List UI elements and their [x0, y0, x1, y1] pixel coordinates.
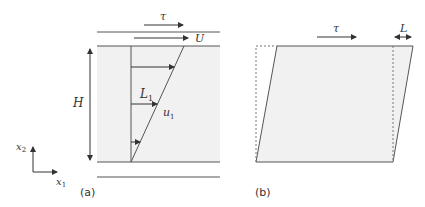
U-label: U — [195, 32, 205, 45]
tau-label: τ — [160, 10, 167, 23]
L-label: L — [399, 22, 407, 35]
H-label: H — [72, 96, 84, 110]
tau-label-b: τ — [333, 22, 340, 35]
sheared-element — [256, 46, 413, 162]
fluid-region — [97, 46, 220, 162]
x1-label: x1 — [56, 176, 66, 189]
x2-label: x2 — [16, 141, 26, 154]
panel-a: τ U H L1 u1 x2 x1 (a) — [16, 10, 220, 199]
shear-flow-diagram: τ U H L1 u1 x2 x1 (a) τ L (b) — [0, 0, 425, 207]
panel-b-label: (b) — [255, 186, 271, 199]
panel-a-label: (a) — [80, 186, 95, 199]
panel-b: τ L (b) — [255, 22, 413, 199]
